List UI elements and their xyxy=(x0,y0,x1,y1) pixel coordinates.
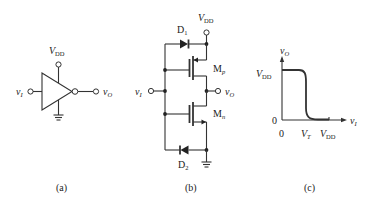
panel-b-input-node xyxy=(163,89,167,93)
panel-a-output-terminal xyxy=(93,89,98,94)
panel-b-mp-label: Mp xyxy=(213,63,226,75)
panel-b-mn-arrow-icon xyxy=(202,120,207,125)
panel-b-mp-gate-node xyxy=(163,68,167,72)
panel-c-x-arrow-icon xyxy=(341,118,347,122)
panel-a-inversion-bubble xyxy=(72,89,78,95)
panel-b-output-terminal xyxy=(215,88,220,93)
panel-b-caption: (b) xyxy=(185,182,197,194)
panel-c-zero-x-tick-label: 0 xyxy=(279,128,284,139)
panel-b-mp-arrow-icon xyxy=(194,58,199,63)
panel-c-caption: (c) xyxy=(304,182,315,194)
panel-a-vo-label: vO xyxy=(103,86,112,98)
panel-c-zero-y-tick-label: 0 xyxy=(272,115,277,126)
panel-a-inverter-symbol: VDD vO vI xyxy=(16,45,112,120)
panel-a-ground-icon xyxy=(54,115,64,120)
panel-c-vi-axis-label: vI xyxy=(350,115,357,127)
panel-b-ground-icon xyxy=(202,162,212,167)
panel-b-input-terminal xyxy=(148,88,153,93)
panel-b-vdd-label: VDD xyxy=(198,12,214,24)
panel-b-d2-label: D2 xyxy=(178,159,188,171)
cmos-inverter-figure: VDD vO vI VDD D1 xyxy=(0,0,373,208)
panel-c-vtc-curve xyxy=(282,70,329,120)
panel-b-mn-label: Mn xyxy=(213,108,225,120)
panel-b-cmos-inverter: VDD D1 Mp vI xyxy=(135,12,234,171)
panel-a-input-terminal xyxy=(28,89,33,94)
panel-a-vi-label: vI xyxy=(16,86,23,98)
panel-c-vdd-y-tick-label: VDD xyxy=(256,68,272,80)
panel-b-vdd-terminal xyxy=(204,30,209,35)
panel-b-d1-label: D1 xyxy=(177,24,187,36)
panel-c-transfer-characteristic: vO vI VDD 0 0 VT VDD xyxy=(256,45,357,140)
panel-b-nmos-mn xyxy=(165,91,207,150)
panel-c-vo-axis-label: vO xyxy=(280,45,289,57)
panel-b-pmos-mp xyxy=(165,44,207,91)
panel-b-vo-label: vO xyxy=(225,86,234,98)
panel-b-mn-gate-node xyxy=(163,112,167,116)
panel-c-vt-tick-label: VT xyxy=(301,128,311,140)
panel-b-diode-d2-icon xyxy=(180,146,189,155)
panel-a-buffer-triangle xyxy=(42,73,72,110)
panel-a-caption: (a) xyxy=(56,182,67,194)
panel-b-vi-label: vI xyxy=(135,86,142,98)
panel-b-diode-d1-icon xyxy=(180,40,189,49)
panel-c-vdd-x-tick-label: VDD xyxy=(320,128,336,140)
panel-a-vdd-label: VDD xyxy=(49,45,65,57)
panel-a-vdd-terminal xyxy=(56,62,61,67)
